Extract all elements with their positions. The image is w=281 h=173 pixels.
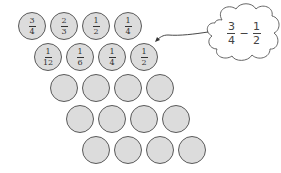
denominator: 4 xyxy=(109,59,114,67)
fraction-coin: 23 xyxy=(50,12,78,40)
numerator: 1 xyxy=(45,48,50,56)
fraction-coin: 16 xyxy=(66,43,94,71)
numerator: 2 xyxy=(61,17,66,25)
fraction-coin-target: 12 xyxy=(130,43,158,71)
numerator: 1 xyxy=(77,48,82,56)
cloud-fraction-right: 1 2 xyxy=(253,21,261,46)
denominator: 12 xyxy=(43,59,53,67)
denominator: 3 xyxy=(61,28,66,36)
fraction-coin: 14 xyxy=(98,43,126,71)
blank-coin xyxy=(178,136,206,164)
blank-coin xyxy=(130,105,158,133)
blank-coin xyxy=(114,74,142,102)
numerator: 1 xyxy=(141,48,146,56)
fraction-coin: 14 xyxy=(114,12,142,40)
blank-coin xyxy=(146,74,174,102)
pointer-arrow-line xyxy=(156,32,208,41)
blank-coin xyxy=(82,136,110,164)
minus-operator: − xyxy=(239,27,248,40)
cloud-fraction-left: 3 4 xyxy=(227,21,235,46)
denominator: 4 xyxy=(228,35,235,46)
fraction-coin: 12 xyxy=(82,12,110,40)
blank-coin xyxy=(66,105,94,133)
denominator: 2 xyxy=(93,28,98,36)
denominator: 2 xyxy=(141,59,146,67)
blank-coin xyxy=(162,105,190,133)
blank-coin xyxy=(146,136,174,164)
fraction-coin: 112 xyxy=(34,43,62,71)
denominator: 4 xyxy=(125,28,130,36)
blank-coin xyxy=(98,105,126,133)
thought-cloud-expression: 3 4 − 1 2 xyxy=(224,17,264,49)
blank-coin xyxy=(50,74,78,102)
denominator: 6 xyxy=(77,59,82,67)
blank-coin xyxy=(82,74,110,102)
denominator: 2 xyxy=(253,35,260,46)
blank-coin xyxy=(114,136,142,164)
fraction-coin: 34 xyxy=(18,12,46,40)
numerator: 1 xyxy=(253,21,260,32)
numerator: 1 xyxy=(93,17,98,25)
numerator: 3 xyxy=(29,17,34,25)
denominator: 4 xyxy=(29,28,34,36)
numerator: 1 xyxy=(125,17,130,25)
fraction-coins-diagram: 34 23 12 14 112 16 14 12 3 4 − xyxy=(0,0,281,173)
numerator: 3 xyxy=(228,21,235,32)
numerator: 1 xyxy=(109,48,114,56)
